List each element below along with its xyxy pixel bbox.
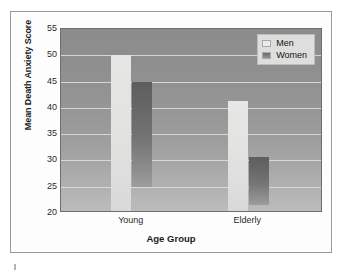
chart-figure-frame: Mean Death Anxiety Score 202530354045505…	[10, 11, 332, 253]
y-tick-label: 55	[31, 23, 57, 33]
y-axis-tick-labels: 2025303540455055	[31, 28, 57, 212]
x-tick-label: Elderly	[234, 215, 262, 225]
page-artifact	[14, 264, 16, 270]
y-tick-label: 35	[31, 128, 57, 138]
y-tick-label: 40	[31, 102, 57, 112]
legend-item-women[interactable]: Women	[262, 49, 307, 61]
x-tick-label: Young	[118, 215, 143, 225]
y-tick-label: 20	[31, 207, 57, 217]
bar-women-elderly	[249, 157, 269, 205]
plot-area: Men Women	[60, 28, 322, 212]
gridline	[61, 108, 321, 109]
chart-legend[interactable]: Men Women	[257, 34, 315, 65]
legend-item-men[interactable]: Men	[262, 37, 307, 49]
gridline	[61, 134, 321, 135]
legend-label-men: Men	[276, 38, 294, 48]
gridline	[61, 160, 321, 161]
bar-men-young	[111, 55, 131, 212]
bar-women-young	[132, 82, 152, 187]
gridline	[61, 82, 321, 83]
y-tick-label: 25	[31, 181, 57, 191]
y-tick-label: 45	[31, 76, 57, 86]
gridline	[61, 187, 321, 188]
y-tick-label: 50	[31, 49, 57, 59]
legend-swatch-women-icon	[262, 52, 271, 59]
bar-men-elderly	[228, 101, 248, 212]
x-axis-title: Age Group	[11, 233, 331, 244]
legend-swatch-men-icon	[262, 40, 271, 47]
x-axis-tick-labels: YoungElderly	[60, 215, 322, 229]
y-tick-label: 30	[31, 154, 57, 164]
legend-label-women: Women	[276, 50, 307, 60]
